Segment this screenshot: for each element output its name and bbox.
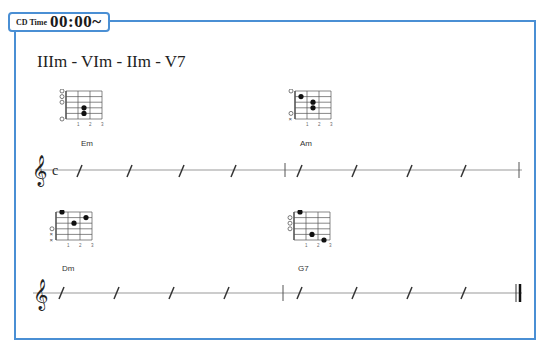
- svg-text:3: 3: [330, 122, 333, 127]
- treble-clef-icon: 𝄞: [33, 279, 48, 311]
- svg-text:1: 1: [67, 243, 70, 248]
- cd-time-badge: CD Time 00:00~: [8, 12, 110, 32]
- chord-name-g7: G7: [298, 264, 309, 273]
- svg-text:3: 3: [329, 243, 332, 248]
- svg-text:3: 3: [91, 243, 94, 248]
- common-time-icon: c: [52, 163, 58, 178]
- chord-diagram-g7: 123: [286, 210, 340, 252]
- svg-text:2: 2: [79, 243, 82, 248]
- svg-text:×: ×: [50, 237, 54, 243]
- slash-marks: [77, 165, 466, 177]
- treble-clef-icon: 𝄞: [32, 155, 47, 187]
- svg-text:1: 1: [305, 243, 308, 248]
- chord-name-am: Am: [300, 139, 312, 148]
- staff-2: 𝄞: [0, 265, 549, 315]
- cd-time-label: CD Time: [16, 18, 47, 27]
- svg-text:1: 1: [77, 122, 80, 127]
- chord-diagram-em: 123: [58, 89, 112, 131]
- chord-diagram-dm: ××123: [48, 210, 102, 252]
- svg-text:2: 2: [318, 122, 321, 127]
- cd-time-value: 00:00~: [50, 12, 102, 32]
- chord-diagram-am: ×123: [287, 89, 341, 131]
- svg-text:3: 3: [101, 122, 104, 127]
- progression-title: IIIm - VIm - IIm - V7: [37, 52, 186, 72]
- chord-name-em: Em: [81, 139, 93, 148]
- svg-text:1: 1: [306, 122, 309, 127]
- svg-text:2: 2: [317, 243, 320, 248]
- chord-name-dm: Dm: [62, 264, 74, 273]
- svg-text:2: 2: [89, 122, 92, 127]
- svg-text:×: ×: [289, 116, 293, 122]
- staff-1: 𝄞 c: [0, 150, 549, 200]
